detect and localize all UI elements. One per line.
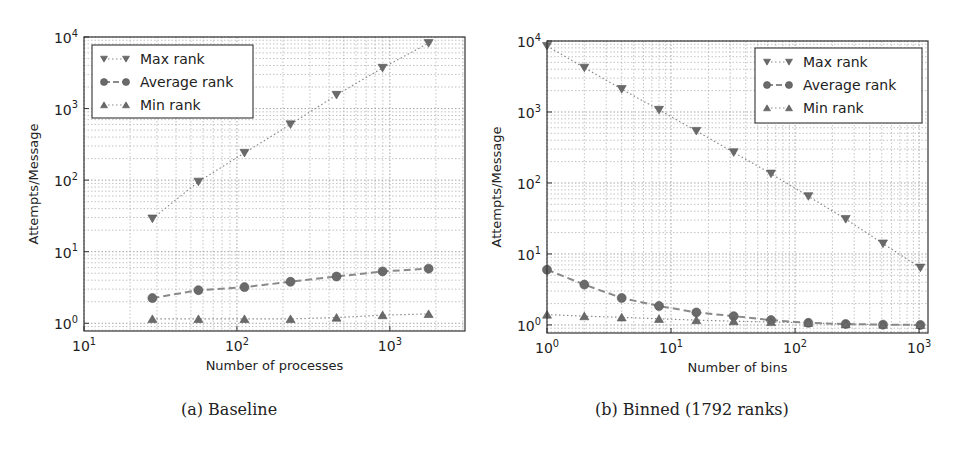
y-tick-label: 101 <box>54 242 78 260</box>
y-tick-label: 103 <box>54 99 78 117</box>
legend-label: Average rank <box>140 74 234 90</box>
y-tick-label: 100 <box>54 314 78 332</box>
circle-marker-icon <box>194 286 203 295</box>
y-axis-label: Attempts/Message <box>26 123 41 244</box>
x-tick-label: 102 <box>783 338 807 356</box>
legend-label: Average rank <box>803 77 897 93</box>
circle-marker-icon <box>378 267 387 276</box>
y-axis-label: Attempts/Message <box>489 126 504 247</box>
legend-label: Min rank <box>140 97 202 113</box>
circle-marker-icon <box>580 280 589 289</box>
legend-label: Min rank <box>803 100 865 116</box>
x-tick-label: 102 <box>225 336 249 354</box>
x-axis-label: Number of bins <box>688 360 788 375</box>
y-tick-label: 102 <box>517 174 541 192</box>
circle-marker-icon <box>786 82 793 89</box>
x-tick-label: 103 <box>907 338 931 356</box>
circle-marker-icon <box>655 301 664 310</box>
y-tick-label: 104 <box>517 32 541 50</box>
y-tick-label: 102 <box>54 171 78 189</box>
circle-marker-icon <box>240 283 249 292</box>
circle-marker-icon <box>424 264 433 273</box>
caption-baseline: (a) Baseline <box>181 400 277 419</box>
x-tick-label: 103 <box>378 336 402 354</box>
y-tick-label: 101 <box>517 245 541 263</box>
caption-binned: (b) Binned (1792 ranks) <box>595 400 789 419</box>
y-tick-label: 104 <box>54 28 78 46</box>
x-tick-label: 100 <box>535 338 559 356</box>
x-axis-label: Number of processes <box>206 358 344 373</box>
legend-label: Max rank <box>140 51 206 67</box>
x-tick-label: 101 <box>659 338 683 356</box>
chart-baseline: 101102103100101102103104Number of proces… <box>26 28 465 373</box>
chart-binned: 100101102103100101102103104Number of bin… <box>489 32 931 375</box>
circle-marker-icon <box>123 79 130 86</box>
y-tick-label: 100 <box>517 316 541 334</box>
circle-marker-icon <box>148 294 157 303</box>
circle-marker-icon <box>286 277 295 286</box>
legend: Max rankAverage rankMin rank <box>92 45 253 118</box>
legend-label: Max rank <box>803 54 869 70</box>
circle-marker-icon <box>617 293 626 302</box>
x-tick-label: 101 <box>72 336 96 354</box>
circle-marker-icon <box>332 272 341 281</box>
circle-marker-icon <box>101 79 108 86</box>
legend: Max rankAverage rankMin rank <box>755 48 922 123</box>
circle-marker-icon <box>764 82 771 89</box>
figure: 101102103100101102103104Number of proces… <box>0 0 954 459</box>
y-tick-label: 103 <box>517 103 541 121</box>
